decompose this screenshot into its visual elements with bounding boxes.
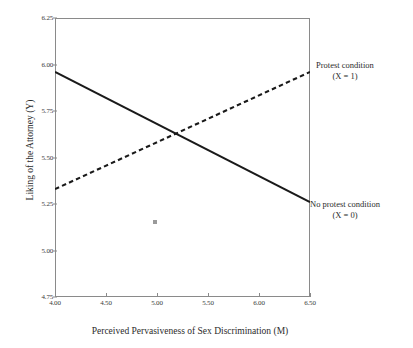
x-axis-tick-label: 4.00 [49, 299, 60, 307]
annotation-protest-condition: Protest condition (X = 1) [316, 60, 374, 82]
x-axis-tick-label: 6.00 [253, 299, 264, 307]
annotation-no-protest-condition: No protest condition (X = 0) [310, 199, 380, 221]
y-axis-tick-mark [53, 18, 57, 19]
y-axis-tick-mark [53, 250, 57, 251]
y-axis-tick-label: 5.00 [42, 247, 53, 255]
x-axis-tick-mark [106, 293, 107, 297]
y-axis-title: Liking of the Attorney (Y) [25, 60, 35, 240]
series-line-protest [55, 72, 310, 189]
y-axis-tick-label: 5.75 [42, 107, 53, 115]
stray-marker [153, 220, 157, 224]
y-axis-tick-mark [53, 111, 57, 112]
y-axis-tick-label: 5.50 [42, 154, 53, 162]
annotation-protest-line1: Protest condition [316, 60, 374, 70]
x-axis-tick-mark [259, 293, 260, 297]
x-axis-tick-label: 4.50 [100, 299, 111, 307]
y-axis-tick-label: 6.00 [42, 61, 53, 69]
annotation-no-protest-line2: (X = 0) [310, 210, 380, 221]
y-axis-tick-mark [53, 204, 57, 205]
y-axis-tick-label: 6.25 [42, 14, 53, 22]
x-axis-tick-mark [208, 293, 209, 297]
x-axis-tick-mark [55, 293, 56, 297]
x-axis-tick-label: 5.50 [202, 299, 213, 307]
plot-area [55, 18, 310, 297]
chart-page: 4.755.005.255.505.756.006.25 4.004.505.0… [0, 0, 413, 348]
x-axis-tick-mark [310, 293, 311, 297]
annotation-no-protest-line1: No protest condition [310, 199, 380, 209]
x-axis-tick-label: 5.00 [151, 299, 162, 307]
y-axis-tick-label: 5.25 [42, 200, 53, 208]
y-axis-tick-mark [53, 64, 57, 65]
x-axis-tick-mark [157, 293, 158, 297]
annotation-protest-line2: (X = 1) [316, 71, 374, 82]
x-axis-title: Perceived Pervasiveness of Sex Discrimin… [0, 326, 380, 336]
x-axis-tick-label: 6.50 [304, 299, 315, 307]
y-axis-tick-mark [53, 157, 57, 158]
series-line-no-protest [55, 72, 310, 202]
